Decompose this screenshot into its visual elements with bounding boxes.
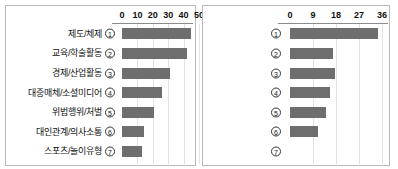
- x-tick-label: 30: [163, 9, 173, 22]
- x-tick-label: 0: [119, 9, 124, 22]
- category-number-badge: 4: [105, 88, 115, 98]
- category-label: 교육/학술활동 2: [3, 48, 115, 59]
- left-chart-panel: 01020304050제도/체제 1교육/학술활동 2경제/산업활동 3대중매체…: [5, 5, 196, 166]
- bar: [122, 126, 144, 137]
- dual-bar-chart-figure: 01020304050제도/체제 1교육/학술활동 2경제/산업활동 3대중매체…: [0, 0, 398, 169]
- category-number-badge: 5: [105, 107, 115, 117]
- left-plot-area: 01020304050제도/체제 1교육/학술활동 2경제/산업활동 3대중매체…: [6, 6, 195, 165]
- x-tick-label: 27: [354, 9, 364, 22]
- category-label: 4: [271, 87, 281, 98]
- category-number-badge: 7: [105, 147, 115, 157]
- right-chart-panel: 091827361234567: [202, 5, 390, 166]
- bar: [290, 48, 333, 59]
- x-tick-label: 36: [377, 9, 387, 22]
- category-label: 3: [271, 68, 281, 79]
- x-tick-label: 0: [287, 9, 292, 22]
- x-axis-tick-labels: 01020304050: [6, 9, 195, 22]
- category-number-badge: 2: [105, 49, 115, 59]
- bar: [290, 87, 330, 98]
- bar: [290, 68, 335, 79]
- gridline: [168, 24, 169, 164]
- bar: [122, 28, 191, 39]
- category-label: 6: [271, 126, 281, 137]
- category-label: 7: [271, 146, 281, 157]
- category-text: 경제/산업활동: [52, 68, 103, 78]
- gridline: [199, 24, 200, 164]
- category-number-badge: 6: [271, 127, 281, 137]
- category-number-badge: 3: [271, 68, 281, 78]
- axis-rule: [278, 23, 388, 24]
- x-tick-label: 9: [310, 9, 315, 22]
- bar: [122, 146, 142, 157]
- category-text: 스포츠/놀이유형: [44, 146, 103, 156]
- bar: [122, 87, 162, 98]
- gridline: [184, 24, 185, 164]
- bar: [122, 48, 187, 59]
- category-label: 5: [271, 107, 281, 118]
- category-text: 교육/학술활동: [52, 48, 103, 58]
- bar: [290, 126, 318, 137]
- bar: [290, 28, 378, 39]
- category-label: 2: [271, 48, 281, 59]
- bar: [122, 68, 170, 79]
- category-label: 위법행위/처벌 5: [3, 107, 115, 118]
- category-text: 대인관계/의사소통: [36, 126, 103, 136]
- category-number-badge: 3: [105, 68, 115, 78]
- gridline: [382, 24, 383, 164]
- gridline: [336, 24, 337, 164]
- x-tick-label: 18: [331, 9, 341, 22]
- category-number-badge: 1: [105, 29, 115, 39]
- category-text: 제도/체제: [68, 28, 103, 38]
- category-label: 대중매체/소셜미디어 4: [3, 87, 115, 98]
- right-plot-area: 091827361234567: [203, 6, 389, 165]
- category-number-badge: 1: [271, 29, 281, 39]
- x-tick-label: 10: [132, 9, 142, 22]
- x-axis-tick-labels: 09182736: [203, 9, 389, 22]
- category-number-badge: 4: [271, 88, 281, 98]
- category-number-badge: 6: [105, 127, 115, 137]
- category-label: 대인관계/의사소통 6: [3, 126, 115, 137]
- category-text: 위법행위/처벌: [52, 107, 103, 117]
- category-label: 경제/산업활동 3: [3, 68, 115, 79]
- x-tick-label: 40: [179, 9, 189, 22]
- gridline: [359, 24, 360, 164]
- bar: [290, 107, 326, 118]
- category-label: 스포츠/놀이유형 7: [3, 146, 115, 157]
- category-label: 제도/체제 1: [3, 28, 115, 39]
- category-text: 대중매체/소셜미디어: [28, 87, 103, 97]
- bar: [122, 107, 154, 118]
- x-tick-label: 20: [148, 9, 158, 22]
- category-label: 1: [271, 28, 281, 39]
- category-number-badge: 5: [271, 107, 281, 117]
- category-number-badge: 7: [271, 147, 281, 157]
- category-number-badge: 2: [271, 49, 281, 59]
